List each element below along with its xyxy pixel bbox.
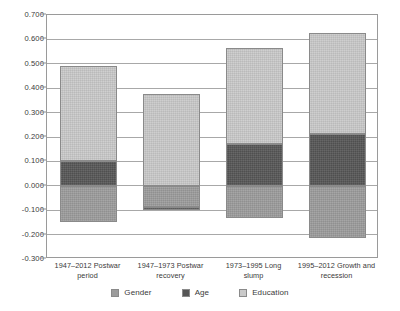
plot-area <box>46 14 378 258</box>
y-axis-tick-mark <box>41 38 46 39</box>
plot-inner <box>47 15 377 257</box>
legend-swatch-education-icon <box>239 289 247 297</box>
x-axis-category-label: 1995–2012 Growth andrecession <box>295 261 378 280</box>
x-axis-category-label: 1947–2012 Postwarperiod <box>46 261 129 280</box>
legend-label: Gender <box>124 288 151 297</box>
legend-item-gender[interactable]: Gender <box>111 288 151 297</box>
y-axis-tick-label: 0.600 <box>0 34 44 43</box>
chart-legend: GenderAgeEducation <box>0 288 400 297</box>
x-axis-label-line: 1947–2012 Postwar <box>46 261 129 271</box>
y-axis-tick-label: -0.300 <box>0 254 44 263</box>
bar-segment-education <box>60 66 117 161</box>
bar-segment-age <box>143 207 200 211</box>
bar-group <box>309 15 366 257</box>
y-axis-tick-label: 0.100 <box>0 156 44 165</box>
y-axis-tick-mark <box>41 184 46 185</box>
bar-group <box>60 15 117 257</box>
stacked-bar-chart: 0.7000.6000.5000.4000.3000.2000.1000.000… <box>0 0 400 311</box>
x-axis-category-label: 1973–1995 Longslump <box>212 261 295 280</box>
y-axis-tick-mark <box>41 136 46 137</box>
legend-label: Age <box>195 288 210 297</box>
y-axis-tick-mark <box>41 14 46 15</box>
bar-segment-education <box>143 94 200 186</box>
legend-swatch-gender-icon <box>111 289 119 297</box>
y-axis-tick-label: -0.100 <box>0 205 44 214</box>
x-axis: 1947–2012 Postwarperiod1947–1973 Postwar… <box>46 261 378 287</box>
bar-segment-age <box>60 161 117 185</box>
y-axis-tick-label: -0.200 <box>0 229 44 238</box>
y-axis-tick-label: 0.300 <box>0 107 44 116</box>
x-axis-label-line: 1973–1995 Long <box>212 261 295 271</box>
y-axis-tick-mark <box>41 160 46 161</box>
y-axis-tick-label: 0.500 <box>0 58 44 67</box>
x-axis-category-label: 1947–1973 Postwarrecovery <box>129 261 212 280</box>
bar-segment-age <box>309 134 366 186</box>
bar-group <box>226 15 283 257</box>
bar-segment-gender <box>309 186 366 238</box>
bar-segment-gender <box>226 186 283 218</box>
bar-segment-education <box>309 33 366 134</box>
x-axis-label-line: recovery <box>129 271 212 281</box>
y-axis-tick-label: 0.400 <box>0 83 44 92</box>
y-axis-tick-mark <box>41 62 46 63</box>
bar-segment-age <box>226 144 283 186</box>
bar-segment-gender <box>143 186 200 207</box>
legend-label: Education <box>252 288 288 297</box>
bar-segment-gender <box>60 186 117 223</box>
y-axis-tick-label: 0.700 <box>0 10 44 19</box>
x-axis-label-line: 1947–1973 Postwar <box>129 261 212 271</box>
y-axis-tick-mark <box>41 111 46 112</box>
bar-segment-education <box>226 48 283 144</box>
y-axis-tick-mark <box>41 87 46 88</box>
x-axis-label-line: 1995–2012 Growth and <box>295 261 378 271</box>
legend-item-age[interactable]: Age <box>182 288 210 297</box>
x-axis-label-line: slump <box>212 271 295 281</box>
x-axis-label-line: period <box>46 271 129 281</box>
y-axis-tick-label: 0.000 <box>0 180 44 189</box>
x-axis-label-line: recession <box>295 271 378 281</box>
legend-item-education[interactable]: Education <box>239 288 288 297</box>
bar-group <box>143 15 200 257</box>
legend-swatch-age-icon <box>182 289 190 297</box>
y-axis-tick-mark <box>41 258 46 259</box>
y-axis-tick-mark <box>41 233 46 234</box>
y-axis-tick-label: 0.200 <box>0 132 44 141</box>
y-axis-tick-mark <box>41 209 46 210</box>
